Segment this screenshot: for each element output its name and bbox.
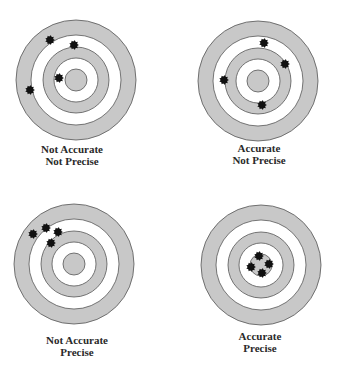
- target-not-accurate-not-precise: [16, 20, 136, 140]
- label-line-1: Not Accurate: [12, 334, 142, 346]
- label-not-accurate-not-precise: Not Accurate Not Precise: [7, 143, 137, 167]
- label-line-1: Accurate: [195, 330, 325, 342]
- label-line-2: Not Precise: [7, 155, 137, 167]
- targets-diagram: [0, 0, 338, 372]
- target-ring: [63, 253, 85, 275]
- target-accurate-not-precise: [198, 21, 318, 141]
- label-not-accurate-precise: Not Accurate Precise: [12, 334, 142, 358]
- target-accurate-precise: [201, 205, 321, 325]
- target-ring: [65, 69, 87, 91]
- label-accurate-precise: Accurate Precise: [195, 330, 325, 354]
- target-ring: [247, 70, 269, 92]
- label-line-1: Accurate: [194, 142, 324, 154]
- label-line-2: Precise: [195, 342, 325, 354]
- label-line-2: Not Precise: [194, 154, 324, 166]
- target-not-accurate-precise: [14, 204, 134, 324]
- label-line-2: Precise: [12, 346, 142, 358]
- label-accurate-not-precise: Accurate Not Precise: [194, 142, 324, 166]
- label-line-1: Not Accurate: [7, 143, 137, 155]
